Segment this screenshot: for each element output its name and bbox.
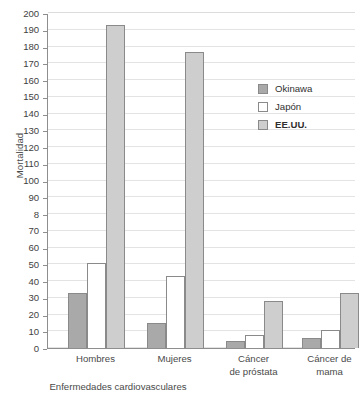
bar-okinawa — [226, 341, 245, 348]
bar-group — [147, 14, 204, 348]
y-tick-label: 170 — [23, 58, 39, 69]
bar-okinawa — [147, 323, 166, 348]
legend-swatch — [258, 102, 268, 112]
y-tick-label: 70 — [29, 225, 39, 236]
bar-okinawa — [68, 293, 87, 348]
y-axis-ticks: 0102030405060708901001101201301401501601… — [0, 14, 47, 349]
bar-series-container — [48, 14, 355, 348]
bar-eeuu — [106, 25, 125, 348]
bar-eeuu — [185, 52, 204, 348]
bar-okinawa — [302, 338, 321, 348]
y-tick-label: 100 — [23, 175, 39, 186]
y-tick-label: 8 — [34, 209, 39, 220]
bar-eeuu — [340, 293, 359, 348]
bar-japn — [87, 263, 106, 348]
y-tick-label: 0 — [34, 343, 39, 354]
y-tick-label: 50 — [29, 259, 39, 270]
y-tick-label: 60 — [29, 242, 39, 253]
bar-group — [226, 14, 283, 348]
bar-eeuu — [264, 301, 283, 348]
mortality-bar-chart: Mortalidad 01020304050607089010011012013… — [0, 0, 364, 405]
legend-swatch — [258, 120, 268, 130]
plot-area — [47, 14, 355, 349]
legend-item-japn[interactable]: Japón — [258, 101, 312, 112]
group-caption: Enfermedades cardiovasculares — [28, 381, 208, 392]
legend-label: EE.UU. — [275, 119, 307, 130]
y-tick-label: 40 — [29, 276, 39, 287]
chart-legend: OkinawaJapónEE.UU. — [258, 83, 312, 130]
y-tick-label: 20 — [29, 309, 39, 320]
y-tick-label: 160 — [23, 75, 39, 86]
x-axis-label: Mujeres — [135, 352, 215, 365]
x-axis-label: Hombres — [56, 352, 136, 365]
y-tick-label: 180 — [23, 41, 39, 52]
y-tick-label: 120 — [23, 142, 39, 153]
y-tick-label: 110 — [24, 158, 39, 169]
y-tick-label: 190 — [23, 24, 39, 35]
y-tick-label: 10 — [29, 326, 39, 337]
legend-label: Japón — [275, 101, 301, 112]
bar-group — [302, 14, 359, 348]
legend-item-okinawa[interactable]: Okinawa — [258, 83, 312, 94]
bar-japn — [245, 335, 264, 348]
y-tick-label: 130 — [23, 125, 39, 136]
y-tick-label: 90 — [29, 192, 39, 203]
y-tick-label: 150 — [23, 91, 39, 102]
legend-swatch — [258, 84, 268, 94]
bar-group — [68, 14, 125, 348]
x-axis-label: Cáncer de próstata — [214, 352, 294, 378]
bar-japn — [166, 276, 185, 348]
y-tick-label: 30 — [29, 292, 39, 303]
gridline — [48, 12, 355, 13]
y-tick-label: 200 — [23, 8, 39, 19]
legend-label: Okinawa — [275, 83, 312, 94]
bar-japn — [321, 330, 340, 348]
y-tick-mark — [43, 349, 48, 350]
x-axis-label: Cáncer de mama — [290, 352, 364, 378]
y-tick-label: 140 — [23, 108, 39, 119]
legend-item-eeuu[interactable]: EE.UU. — [258, 119, 312, 130]
